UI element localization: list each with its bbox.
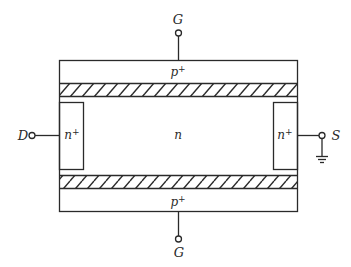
drain-terminal-icon [29, 133, 35, 139]
bottom-gate-region-label: p+ [170, 194, 185, 209]
channel-label: n [174, 128, 182, 142]
source-label: S [332, 128, 341, 143]
drain-contact-sup: + [72, 127, 80, 137]
bottom-gate-terminal-icon [176, 236, 182, 242]
top-gate-label: G [173, 12, 183, 27]
source-terminal-icon [319, 133, 325, 139]
top-depletion-region [60, 84, 297, 96]
source-contact-sup: + [285, 127, 293, 137]
jfet-diagram: G G D S p+ p+ n n+ n+ [0, 0, 351, 267]
source-contact-label: n+ [277, 127, 292, 142]
top-gate-region-label: p+ [170, 64, 185, 79]
ground-icon [316, 139, 328, 163]
drain-contact-label: n+ [64, 127, 79, 142]
top-gate-terminal-icon [176, 30, 182, 36]
bottom-gate-label: G [174, 245, 184, 260]
bottom-depletion-region [60, 176, 297, 188]
drain-label: D [17, 128, 29, 143]
drain-contact-base: n [64, 128, 72, 142]
bottom-gate-region-sup: + [178, 194, 186, 204]
source-contact-base: n [277, 128, 285, 142]
top-gate-region-sup: + [178, 64, 186, 74]
